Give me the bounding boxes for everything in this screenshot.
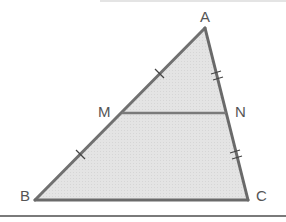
vertex-label-n: N: [235, 104, 246, 119]
diagram-frame: A M N B C: [0, 0, 286, 222]
vertex-label-m: M: [98, 104, 111, 119]
vertex-label-c: C: [256, 188, 267, 203]
vertex-label-b: B: [20, 188, 30, 203]
vertex-label-a: A: [200, 9, 210, 24]
bottom-border: [0, 215, 286, 217]
